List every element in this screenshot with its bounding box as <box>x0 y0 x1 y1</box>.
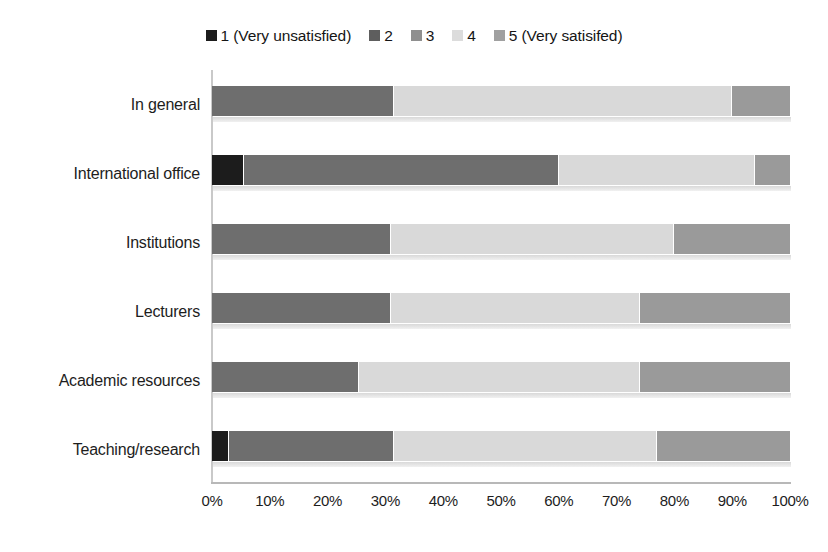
category-label: International office <box>12 139 212 208</box>
x-tick-label: 90% <box>718 492 747 509</box>
legend-item[interactable]: 3 <box>411 28 435 44</box>
stacked-bar[interactable] <box>212 224 790 254</box>
bar-segment[interactable] <box>212 86 394 116</box>
legend-swatch-icon <box>369 30 380 41</box>
chart-row: In general <box>212 70 790 139</box>
bar-segment[interactable] <box>212 293 391 323</box>
bar-segment[interactable] <box>657 431 790 461</box>
legend-item-label: 4 <box>467 28 476 44</box>
bar-segment[interactable] <box>212 431 229 461</box>
x-tick-label: 70% <box>602 492 631 509</box>
category-label: Institutions <box>12 208 212 277</box>
x-tick-label: 10% <box>255 492 284 509</box>
bar-shadow <box>213 393 791 398</box>
category-label: In general <box>12 70 212 139</box>
bar-segment[interactable] <box>640 362 790 392</box>
stacked-bar[interactable] <box>212 155 790 185</box>
bar-segment[interactable] <box>394 431 657 461</box>
stacked-bar[interactable] <box>212 362 790 392</box>
x-tick-label: 30% <box>371 492 400 509</box>
plot-area: In generalInternational officeInstitutio… <box>212 70 790 484</box>
x-tick-label: 40% <box>429 492 458 509</box>
legend-item-label: 5 (Very satisifed) <box>509 28 623 44</box>
legend-item-label: 2 <box>384 28 393 44</box>
chart-legend: 1 (Very unsatisfied)2345 (Very satisifed… <box>0 28 828 44</box>
legend-item[interactable]: 2 <box>369 28 393 44</box>
legend-item[interactable]: 5 (Very satisifed) <box>494 28 623 44</box>
x-tick-label: 80% <box>660 492 689 509</box>
bar-segment[interactable] <box>674 224 790 254</box>
x-tick-label: 60% <box>544 492 573 509</box>
bar-segment[interactable] <box>640 293 790 323</box>
legend-swatch-icon <box>411 30 422 41</box>
bar-segment[interactable] <box>212 224 391 254</box>
legend-swatch-icon <box>452 30 463 41</box>
chart-row: Institutions <box>212 208 790 277</box>
bar-segment[interactable] <box>394 86 732 116</box>
bar-shadow <box>213 186 791 191</box>
legend-swatch-icon <box>494 30 505 41</box>
bar-shadow <box>213 255 791 260</box>
x-axis-tick-labels: 0%10%20%30%40%50%60%70%80%90%100% <box>212 492 790 518</box>
legend-item-label: 3 <box>426 28 435 44</box>
bar-segment[interactable] <box>212 155 244 185</box>
bar-segment[interactable] <box>391 293 640 323</box>
legend-item[interactable]: 1 (Very unsatisfied) <box>206 28 352 44</box>
legend-item[interactable]: 4 <box>452 28 476 44</box>
bar-segment[interactable] <box>732 86 790 116</box>
chart-row: Lecturers <box>212 277 790 346</box>
x-tick-label: 100% <box>771 492 808 509</box>
stacked-bar[interactable] <box>212 293 790 323</box>
bar-shadow <box>213 462 791 467</box>
bar-shadow <box>213 324 791 329</box>
stacked-bar-chart: 1 (Very unsatisfied)2345 (Very satisifed… <box>0 0 828 552</box>
stacked-bar[interactable] <box>212 86 790 116</box>
category-label: Academic resources <box>12 346 212 415</box>
bar-shadow <box>213 117 791 122</box>
bar-segment[interactable] <box>559 155 756 185</box>
category-label: Lecturers <box>12 277 212 346</box>
bar-segment[interactable] <box>755 155 790 185</box>
bar-segment[interactable] <box>359 362 639 392</box>
legend-item-label: 1 (Very unsatisfied) <box>221 28 352 44</box>
chart-row: Academic resources <box>212 346 790 415</box>
bar-segment[interactable] <box>244 155 559 185</box>
bar-segment[interactable] <box>212 362 359 392</box>
bar-segment[interactable] <box>229 431 394 461</box>
bar-segment[interactable] <box>391 224 674 254</box>
stacked-bar[interactable] <box>212 431 790 461</box>
x-tick-label: 0% <box>201 492 222 509</box>
legend-swatch-icon <box>206 30 217 41</box>
chart-row: Teaching/research <box>212 415 790 484</box>
category-label: Teaching/research <box>12 415 212 484</box>
chart-row: International office <box>212 139 790 208</box>
x-tick-label: 50% <box>486 492 515 509</box>
x-tick-label: 20% <box>313 492 342 509</box>
